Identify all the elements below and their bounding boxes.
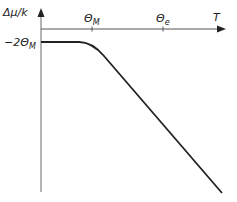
curve xyxy=(41,42,222,193)
x-axis-label: T xyxy=(213,11,221,24)
y-axis-arrowhead xyxy=(38,8,45,17)
x-axis-arrowhead xyxy=(217,26,226,33)
diagram-canvas: Δμ/k T ΘM Θe −2ΘM xyxy=(0,0,237,202)
tick-label-theta-e: Θe xyxy=(156,12,170,27)
tick-label-theta-m: ΘM xyxy=(84,12,100,27)
y-level-label: −2ΘM xyxy=(4,36,36,51)
y-axis-label: Δμ/k xyxy=(2,6,28,19)
